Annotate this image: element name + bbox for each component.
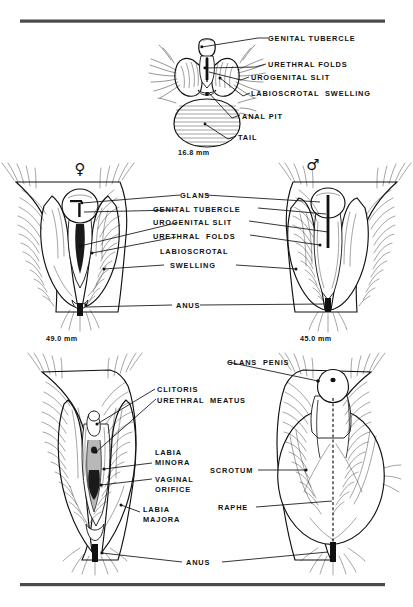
label-majora: MAJORA <box>143 515 180 524</box>
dot-labia-minora <box>102 467 105 470</box>
label-urethral-meatus: URETHRAL MEATUS <box>157 396 246 405</box>
label-glans: GLANS <box>180 191 210 200</box>
glans-mark-f <box>70 200 82 202</box>
dot-clitoris <box>96 423 99 426</box>
label-genital-tubercle-mid: GENITAL TUBERCLE <box>153 205 241 214</box>
dot-labia-majora <box>120 504 123 507</box>
female-symbol-mid: ♀ <box>75 160 86 178</box>
dot-urethral-folds <box>204 67 207 70</box>
bottom-rule <box>20 583 385 586</box>
label-swelling: SWELLING <box>170 261 216 270</box>
male-symbol-mid: ♂ <box>306 156 319 174</box>
label-labioscrotal: LABIOSCROTAL <box>160 247 228 256</box>
dot-glans-f <box>81 202 84 205</box>
label-urethral-folds-mid: URETHRAL FOLDS <box>153 232 235 241</box>
dot-anus-f-bottom <box>101 552 104 555</box>
clitoral-glans <box>89 411 100 421</box>
dot-labio-m <box>295 268 298 271</box>
caption-16-8mm: 16.8 mm <box>178 148 210 157</box>
urethral-meatus-male <box>330 378 335 382</box>
label-labia: LABIA <box>155 448 182 457</box>
label-anus-mid: ANUS <box>176 301 200 310</box>
dot-scrotum <box>304 468 307 471</box>
dot-urfolds-m <box>319 244 322 247</box>
dot-glans-penis <box>316 379 320 383</box>
label-urogenital-slit: UROGENITAL SLIT <box>251 73 330 82</box>
label-anus-bottom: ANUS <box>186 558 210 567</box>
dot-genital-tubercle <box>201 46 204 49</box>
dot-tail <box>204 123 207 126</box>
dot-labioscrotal <box>219 77 222 80</box>
label-urethral-folds: URETHRAL FOLDS <box>268 60 348 69</box>
label-glans-penis: GLANS PENIS <box>227 358 289 367</box>
caption-49mm: 49.0 mm <box>46 334 78 343</box>
label-urogenital-slit-mid: UROGENITAL SLIT <box>153 218 232 227</box>
label-raphe: RAPHE <box>218 503 248 512</box>
dot-labio-f <box>103 268 106 271</box>
label-orifice: ORIFICE <box>155 485 191 494</box>
dot-ur-meatus <box>95 451 98 454</box>
tubercle-slit-f <box>78 203 80 217</box>
dot-vaginal-orifice <box>99 483 102 486</box>
caption-45mm: 45.0 mm <box>300 334 332 343</box>
label-clitoris: CLITORIS <box>157 385 198 394</box>
dot-ugslit-f <box>79 245 82 248</box>
label-tail: TAIL <box>238 133 257 142</box>
label-labia-2: LABIA <box>143 505 170 514</box>
dot-urfolds-f <box>91 252 94 255</box>
label-scrotum: SCROTUM <box>210 466 253 475</box>
top-rule <box>20 20 385 23</box>
label-genital-tubercle: GENITAL TUBERCLE <box>268 34 356 43</box>
label-minora: MINORA <box>155 458 190 467</box>
urethral-groove-male <box>327 195 330 248</box>
label-vaginal: VAGINAL <box>155 475 194 484</box>
label-labioscrotal-swelling: LABIOSCROTAL SWELLING <box>251 89 371 98</box>
anatomical-figure: GENITAL TUBERCLE URETHRAL FOLDS UROGENIT… <box>0 0 413 607</box>
glans-penis-shape <box>318 370 349 403</box>
label-anal-pit: ANAL PIT <box>242 112 283 121</box>
dot-anus-f-mid <box>85 304 88 307</box>
anus-male-mid <box>325 298 331 312</box>
